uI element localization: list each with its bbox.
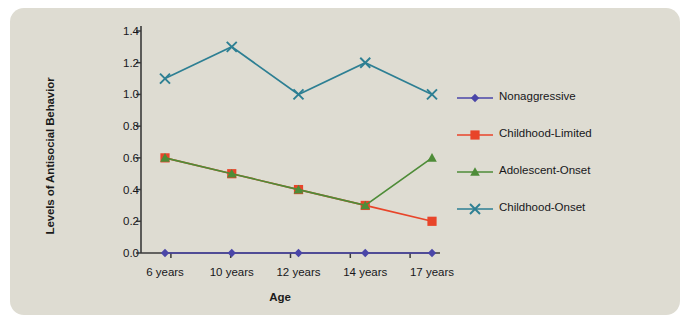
data-point-cross: [360, 58, 370, 68]
legend-marker: [455, 162, 495, 182]
series-line-childhood-onset: [165, 47, 432, 95]
diamond-marker: [228, 249, 236, 257]
y-axis-title: Levels of Antisocial Behavior: [44, 56, 56, 256]
data-point-diamond: [228, 249, 236, 257]
data-point-diamond: [161, 249, 169, 257]
data-point-cross: [294, 89, 304, 99]
diamond-marker: [471, 94, 479, 102]
legend-marker: [455, 199, 495, 219]
data-point-cross: [160, 74, 170, 84]
legend-item[interactable]: Childhood-Onset: [455, 199, 670, 236]
square-marker: [427, 217, 436, 226]
legend-label: Childhood-Limited: [499, 127, 592, 139]
diamond-marker: [428, 249, 436, 257]
data-point-cross: [227, 42, 237, 52]
x-axis-tick-label: 10 years: [210, 266, 254, 278]
x-axis-tick-label: 17 years: [410, 266, 454, 278]
triangle-marker: [427, 153, 437, 162]
x-axis-tick-label: 6 years: [146, 266, 184, 278]
y-axis-tick-label: 0.0: [105, 247, 139, 259]
diamond-marker: [161, 249, 169, 257]
x-axis-tick-labels: 6 years10 years12 years14 years17 years: [10, 266, 680, 286]
data-point-diamond: [471, 94, 479, 102]
y-axis-tick-label: 1.0: [105, 88, 139, 100]
y-axis-tick-label: 1.2: [105, 57, 139, 69]
y-axis-tick-label: 1.4: [105, 25, 139, 37]
x-axis-title: Age: [130, 291, 430, 303]
data-point-diamond: [361, 249, 369, 257]
x-axis-tick-label: 14 years: [343, 266, 387, 278]
data-point-triangle: [427, 153, 437, 162]
y-axis-tick-label: 0.8: [105, 120, 139, 132]
legend-marker: [455, 88, 495, 108]
data-point-square: [470, 130, 479, 139]
data-point-diamond: [428, 249, 436, 257]
y-axis-tick-label: 0.4: [105, 184, 139, 196]
legend-label: Adolescent-Onset: [499, 164, 590, 176]
diamond-marker: [294, 249, 302, 257]
y-axis-tick-label: 0.2: [105, 215, 139, 227]
figure-panel: 0.00.20.40.60.81.01.21.4 6 years10 years…: [10, 8, 680, 315]
chart-legend: NonaggressiveChildhood-LimitedAdolescent…: [455, 88, 670, 236]
y-axis-tick-label: 0.6: [105, 152, 139, 164]
series-line-adolescent-onset: [165, 158, 432, 206]
data-point-cross: [427, 89, 437, 99]
legend-label: Nonaggressive: [499, 90, 576, 102]
legend-item[interactable]: Childhood-Limited: [455, 125, 670, 162]
data-point-square: [427, 217, 436, 226]
legend-item[interactable]: Nonaggressive: [455, 88, 670, 125]
data-point-diamond: [294, 249, 302, 257]
plot-area: 0.00.20.40.60.81.01.21.4 6 years10 years…: [10, 8, 680, 315]
x-axis-tick-label: 12 years: [276, 266, 320, 278]
diamond-marker: [361, 249, 369, 257]
legend-marker: [455, 125, 495, 145]
legend-item[interactable]: Adolescent-Onset: [455, 162, 670, 199]
square-marker: [470, 130, 479, 139]
legend-label: Childhood-Onset: [499, 201, 585, 213]
